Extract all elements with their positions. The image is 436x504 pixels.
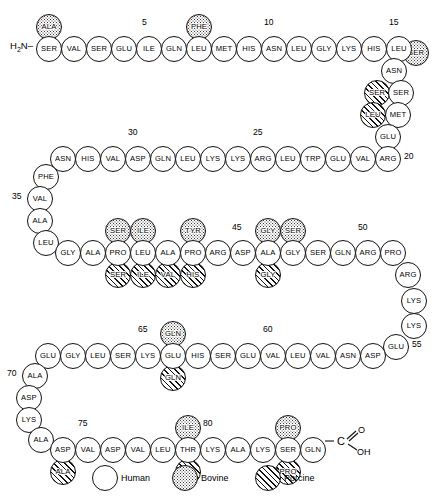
legend-label-porcine: Porcine [284, 473, 315, 483]
residue-label: HIS [191, 352, 204, 360]
residue-38-gly: GLY [55, 240, 81, 266]
residue-label: PRO [109, 249, 126, 257]
position-number-55: 55 [412, 339, 422, 349]
position-number-50: 50 [358, 222, 368, 232]
residue-label: GLN [166, 45, 182, 53]
residue-56-asp: ASP [360, 343, 386, 369]
residue-label: LEU [180, 155, 195, 163]
residue-label: VAL [33, 195, 47, 203]
residue-29-gln: GLN [150, 146, 176, 172]
residue-label: LYS [206, 155, 220, 163]
residue-label: GLU [165, 352, 181, 360]
residue-27-lys: LYS [200, 146, 226, 172]
residue-label: ASP [130, 155, 146, 163]
residue-44-arg: ARG [205, 240, 231, 266]
position-number-70: 70 [7, 368, 17, 378]
residue-2-val: VAL [61, 36, 87, 62]
residue-label: ALA [231, 446, 246, 454]
residue-5-ile: ILE [136, 36, 162, 62]
residue-label: HIS [242, 45, 255, 53]
residue-1-ser: SER [36, 36, 62, 62]
residue-21-val: VAL [350, 146, 376, 172]
residue-24-leu: LEU [275, 146, 301, 172]
variant-label: HIS [186, 271, 199, 279]
residue-label: SER [310, 249, 326, 257]
variant-label: GLY [260, 227, 275, 235]
residue-label: ARG [254, 155, 271, 163]
residue-label: GLU [388, 343, 404, 351]
residue-label: GLU [116, 45, 132, 53]
residue-label: ALA [261, 249, 276, 257]
position-number-75: 75 [78, 418, 88, 428]
variant-label: LEU [365, 111, 380, 119]
residue-48-ser: SER [305, 240, 331, 266]
residue-7-leu: LEU [186, 36, 212, 62]
residue-label: LYS [141, 352, 155, 360]
residue-label: LEU [155, 446, 170, 454]
residue-label: ASN [340, 352, 356, 360]
legend-swatch-human [92, 465, 118, 491]
legend-swatch-porcine [255, 465, 281, 491]
variant-label: PHE [191, 23, 207, 31]
position-number-25: 25 [253, 127, 263, 137]
residue-55-glu: GLU [383, 334, 409, 360]
residue-label: VAL [106, 155, 120, 163]
residue-label: SER [115, 352, 131, 360]
residue-label: VAL [131, 446, 145, 454]
residue-label: LEU [135, 249, 150, 257]
residue-label: ARG [399, 271, 416, 279]
residue-label: SER [215, 352, 231, 360]
residue-58-val: VAL [310, 343, 336, 369]
residue-63-his: HIS [185, 343, 211, 369]
residue-label: LYS [407, 297, 421, 305]
variant-label: ILE [137, 227, 149, 235]
n-terminus-label: H2N– [10, 40, 33, 53]
residue-41-leu: LEU [130, 240, 156, 266]
residue-52-arg: ARG [395, 262, 421, 288]
legend-item-human: Human [92, 465, 150, 491]
position-number-60: 60 [263, 324, 273, 334]
variant-label: GLY [260, 271, 275, 279]
variant-label: GLN [165, 374, 181, 382]
residue-label: GLU [330, 155, 346, 163]
residue-label: LEU [391, 45, 406, 53]
residue-11-leu: LEU [286, 36, 312, 62]
variant-label: ILE [137, 271, 149, 279]
residue-54-lys: LYS [401, 313, 427, 339]
legend: Human Bovine Porcine [0, 455, 436, 504]
variant-label: ALA [42, 23, 57, 31]
residue-label: LYS [256, 446, 270, 454]
residue-label: GLN [155, 155, 171, 163]
residue-label: ASN [266, 45, 282, 53]
residue-label: ALA [28, 372, 43, 380]
residue-label: ALA [33, 217, 48, 225]
residue-label: LEU [90, 352, 105, 360]
residue-label: LYS [206, 446, 220, 454]
residue-label: LEU [280, 155, 295, 163]
residue-label: ASP [235, 249, 251, 257]
position-number-45: 45 [232, 222, 242, 232]
legend-item-porcine: Porcine [255, 465, 315, 491]
residue-label: SER [393, 89, 409, 97]
residue-label: LYS [22, 416, 36, 424]
position-number-30: 30 [128, 127, 138, 137]
residue-57-asn: ASN [335, 343, 361, 369]
residue-label: ILE [143, 45, 155, 53]
residue-label: LYS [407, 322, 421, 330]
residue-6-gln: GLN [161, 36, 187, 62]
residue-45-asp: ASP [230, 240, 256, 266]
position-number-65: 65 [138, 324, 148, 334]
legend-swatch-bovine [172, 465, 198, 491]
legend-label-human: Human [121, 473, 150, 483]
residue-20-arg: ARG [375, 146, 401, 172]
residue-10-asn: ASN [261, 36, 287, 62]
residue-label: ASN [386, 67, 402, 75]
residue-label: ASP [105, 446, 121, 454]
residue-label: VAL [81, 446, 95, 454]
residue-49-gln: GLN [330, 240, 356, 266]
residue-68-gly: GLY [60, 343, 86, 369]
residue-43-pro: PRO [180, 240, 206, 266]
residue-28-leu: LEU [175, 146, 201, 172]
residue-label: PHE [38, 173, 54, 181]
residue-14-his: HIS [361, 36, 387, 62]
